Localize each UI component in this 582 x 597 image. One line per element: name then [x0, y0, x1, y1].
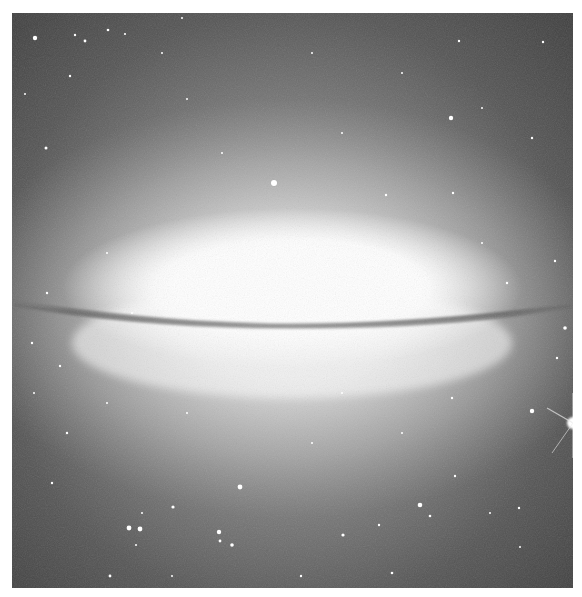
- galaxy-illustration: [12, 13, 573, 588]
- film-grain: [12, 13, 573, 588]
- galaxy-image: Grayscale astronomical photograph of an …: [12, 13, 573, 588]
